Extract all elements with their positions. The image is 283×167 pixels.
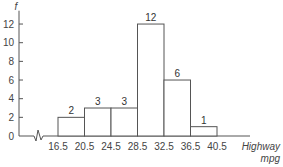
- x-axis-title-line1: Highway: [242, 141, 281, 152]
- x-tick-label: 16.5: [48, 141, 68, 152]
- bar-value-label: 3: [95, 96, 101, 107]
- bar-value-label: 3: [121, 96, 127, 107]
- y-tick-label: 12: [3, 19, 15, 30]
- y-tick-label: 6: [8, 75, 14, 86]
- bars: [58, 24, 217, 136]
- y-tick-label: 0: [8, 131, 14, 142]
- y-tick-label: 10: [3, 37, 15, 48]
- histogram-bar: [164, 80, 191, 136]
- x-tick-label: 24.5: [101, 141, 121, 152]
- bar-value-label: 1: [201, 115, 207, 126]
- y-axis-title: f: [15, 1, 19, 12]
- y-tick-label: 2: [8, 112, 14, 123]
- histogram-bar: [111, 108, 138, 136]
- x-tick-label: 40.5: [207, 141, 227, 152]
- histogram-bar: [85, 108, 112, 136]
- x-tick-label: 36.5: [181, 141, 201, 152]
- histogram-bar: [138, 24, 165, 136]
- x-tick-label: 20.5: [75, 141, 95, 152]
- histogram-bar: [58, 117, 85, 136]
- y-tick-label: 8: [8, 56, 14, 67]
- y-tick-label: 4: [8, 93, 14, 104]
- bar-value-label: 6: [174, 68, 180, 79]
- x-axis-title-line2: mpg: [261, 153, 281, 164]
- histogram-bar: [191, 127, 218, 136]
- bar-value-label: 2: [68, 105, 74, 116]
- bar-value-label: 12: [145, 12, 157, 23]
- x-tick-label: 28.5: [128, 141, 148, 152]
- x-tick-label: 32.5: [154, 141, 174, 152]
- histogram-chart: 024681012f233126116.520.524.528.532.536.…: [0, 0, 283, 167]
